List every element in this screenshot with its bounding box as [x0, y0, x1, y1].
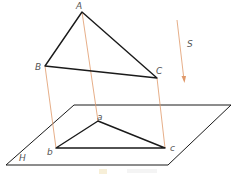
projector-Cc	[157, 78, 165, 148]
arrowhead-icon	[182, 76, 187, 83]
plane-h	[6, 105, 231, 165]
label-a: a	[97, 112, 103, 122]
triangle-ABC	[45, 12, 157, 78]
projection-diagram: A B C S a b c H	[0, 0, 233, 176]
label-A: A	[75, 1, 82, 11]
label-b: b	[47, 147, 53, 157]
label-c: c	[170, 143, 175, 153]
label-C: C	[156, 66, 163, 76]
watermark	[99, 169, 157, 174]
label-B: B	[35, 62, 41, 72]
label-H: H	[19, 153, 26, 163]
projector-Bb	[45, 66, 56, 148]
triangle-abc	[56, 121, 165, 148]
label-S: S	[187, 39, 193, 49]
direction-arrow-s	[177, 20, 186, 83]
